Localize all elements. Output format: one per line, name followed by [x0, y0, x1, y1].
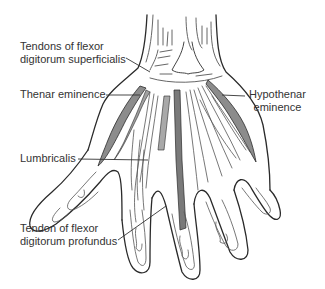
fdp-tendon [174, 90, 186, 230]
middle-finger-outline [152, 191, 200, 279]
label-lumbricalis: Lumbricalis [20, 152, 76, 165]
label-tendon-flexor-digitorum-profundus: Tendon of flexor digitorum profundus [20, 222, 117, 248]
leader-lumbricalis [78, 159, 148, 160]
index-finger-outline [122, 198, 152, 273]
hand-anatomy-diagram: Tendons of flexor digitorum superficiali… [0, 0, 325, 289]
ring-finger-outline [194, 190, 248, 259]
label-hypothenar-eminence: Hypothenar eminence [249, 88, 306, 114]
label-flexor-digitorum-superficialis: Tendons of flexor digitorum superficiali… [20, 40, 126, 66]
leader-hypothenar [222, 95, 245, 96]
label-thenar-eminence: Thenar eminence [20, 88, 106, 101]
